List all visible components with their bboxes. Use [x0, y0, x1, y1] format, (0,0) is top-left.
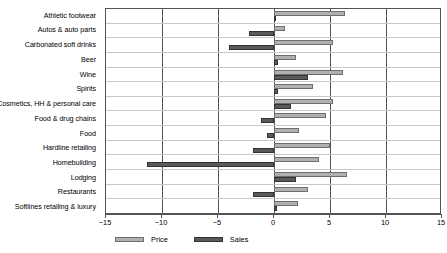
bar-sales	[274, 206, 277, 211]
bar-price	[274, 26, 285, 31]
category-label: Food	[0, 126, 100, 141]
category-label: Carbonated soft drinks	[0, 37, 100, 52]
x-tick-label: −5	[213, 219, 221, 226]
category-label: Wine	[0, 67, 100, 82]
table-row	[106, 24, 440, 39]
legend-entry: Sales	[194, 236, 249, 243]
x-tick-label: 0	[271, 219, 275, 226]
table-row	[106, 38, 440, 53]
bar-price	[274, 11, 345, 16]
legend-label: Sales	[230, 236, 249, 243]
table-row	[106, 185, 440, 200]
category-label: Spirits	[0, 82, 100, 97]
table-row	[106, 170, 440, 185]
bar-sales	[261, 118, 274, 123]
bar-sales	[274, 177, 296, 182]
table-row	[106, 9, 440, 24]
x-tick-label: −10	[155, 219, 168, 226]
table-row	[106, 82, 440, 97]
chart-legend: PriceSales	[115, 236, 248, 243]
bar-price	[274, 84, 313, 89]
category-label: Food & drug chains	[0, 111, 100, 126]
legend-entry: Price	[115, 236, 168, 243]
x-tick-label: −15	[99, 219, 112, 226]
table-row	[106, 111, 440, 126]
bar-sales	[274, 60, 278, 65]
bar-price	[274, 157, 319, 162]
bar-price	[274, 201, 298, 206]
bar-rows	[106, 9, 440, 213]
category-label: Hardline retailing	[0, 140, 100, 155]
bar-sales	[274, 89, 278, 94]
bar-price	[274, 187, 308, 192]
bar-price	[274, 128, 299, 133]
bar-sales	[253, 148, 274, 153]
table-row	[106, 141, 440, 156]
x-tick-label: 15	[437, 219, 445, 226]
bar-price	[274, 143, 330, 148]
horizontal-bar-chart: Athletic footwearAutos & auto partsCarbo…	[0, 0, 447, 253]
x-tick-label: 10	[381, 219, 389, 226]
bar-price	[274, 40, 333, 45]
bar-sales	[274, 16, 276, 21]
bar-sales	[267, 133, 274, 138]
bar-sales	[274, 104, 291, 109]
bar-sales	[229, 45, 274, 50]
table-row	[106, 199, 440, 213]
table-row	[106, 68, 440, 83]
legend-label: Price	[151, 236, 168, 243]
table-row	[106, 126, 440, 141]
category-label: Beer	[0, 52, 100, 67]
bar-sales	[253, 192, 274, 197]
x-tick-label: 5	[327, 219, 331, 226]
plot-area	[105, 8, 441, 214]
category-label: Homebuilding	[0, 155, 100, 170]
category-label: Autos & auto parts	[0, 23, 100, 38]
bar-price	[274, 113, 326, 118]
table-row	[106, 53, 440, 68]
category-label: Cosmetics, HH & personal care	[0, 96, 100, 111]
legend-swatch-price	[115, 237, 144, 242]
category-label: Softlines retailing & luxury	[0, 199, 100, 214]
bar-sales	[147, 162, 274, 167]
category-label: Restaurants	[0, 185, 100, 200]
bar-sales	[249, 31, 274, 36]
table-row	[106, 97, 440, 112]
category-label: Athletic footwear	[0, 8, 100, 23]
category-axis: Athletic footwearAutos & auto partsCarbo…	[0, 8, 100, 214]
category-label: Lodging	[0, 170, 100, 185]
legend-swatch-sales	[194, 237, 223, 242]
table-row	[106, 155, 440, 170]
bar-sales	[274, 75, 308, 80]
